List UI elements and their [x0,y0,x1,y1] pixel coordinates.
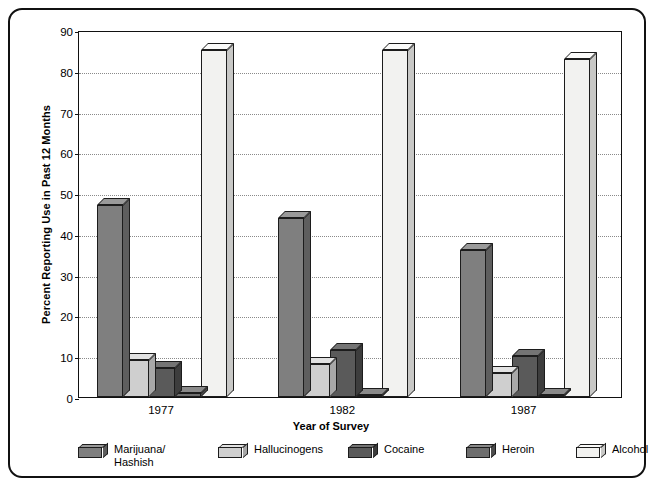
bar-front-face [97,205,123,397]
bar-marijuanahashish-1987 [460,250,486,397]
legend-swatch-side [491,443,496,458]
chart-figure: Percent Reporting Use in Past 12 Months … [0,0,662,497]
legend-label: Alcohol [612,441,648,456]
gridline [79,195,621,196]
y-tick-mark [75,317,79,318]
legend-swatch-front [218,447,242,458]
bar-marijuanahashish-1982 [278,218,304,397]
legend-swatch-side [373,443,378,458]
bar-side-face [538,349,545,397]
bar-front-face [278,218,304,397]
gridline [79,236,621,237]
bar-side-face [356,343,363,397]
bar-side-face [408,43,415,397]
legend-swatch-icon [348,444,378,458]
bar-front-face [564,59,590,397]
bar-side-face [486,243,493,397]
bar-alcohol-1977 [201,50,227,397]
y-tick-label: 50 [60,189,73,201]
bar-side-face [590,52,597,397]
chart-legend: Marijuana/ HashishHallucinogensCocaineHe… [78,441,638,483]
bar-front-face [382,50,408,397]
y-tick-label: 90 [60,26,73,38]
legend-swatch-front [348,447,372,458]
bar-alcohol-1982 [382,50,408,397]
legend-item-alcohol[interactable]: Alcohol [576,441,648,458]
legend-swatch-front [78,447,102,458]
y-tick-label: 20 [60,311,73,323]
bar-front-face [356,395,382,397]
bar-heroin-1987 [538,395,564,397]
legend-item-hallucinogens[interactable]: Hallucinogens [218,441,323,458]
legend-swatch-side [243,443,248,458]
y-tick-label: 80 [60,67,73,79]
legend-label: Cocaine [384,441,424,456]
bar-heroin-1977 [175,393,201,397]
y-tick-mark [75,32,79,33]
legend-item-cocaine[interactable]: Cocaine [348,441,424,458]
bar-front-face [538,395,564,397]
y-tick-mark [75,358,79,359]
bar-heroin-1982 [356,395,382,397]
x-tick-label-1982: 1982 [330,404,356,416]
x-tick-label-1977: 1977 [148,404,174,416]
gridline [79,73,621,74]
legend-swatch-front [576,447,600,458]
bar-side-face [227,43,234,397]
y-tick-mark [75,277,79,278]
y-tick-label: 70 [60,108,73,120]
bar-front-face [460,250,486,397]
y-tick-label: 10 [60,352,73,364]
gridline [79,277,621,278]
y-tick-mark [75,73,79,74]
y-tick-label: 60 [60,148,73,160]
y-tick-mark [75,114,79,115]
bar-side-face [123,198,130,397]
bar-marijuanahashish-1977 [97,205,123,397]
bar-side-face [149,353,156,397]
y-tick-label: 0 [67,393,73,405]
x-tick-label-1987: 1987 [511,404,537,416]
legend-label: Heroin [502,441,534,456]
legend-swatch-icon [78,444,108,458]
legend-swatch-icon [576,444,606,458]
gridline [79,114,621,115]
y-tick-label: 40 [60,230,73,242]
y-tick-mark [75,195,79,196]
bar-front-face [201,50,227,397]
y-axis-title: Percent Reporting Use in Past 12 Months [40,105,52,324]
bar-alcohol-1987 [564,59,590,397]
gridline [79,154,621,155]
x-axis-title: Year of Survey [0,420,662,432]
legend-label: Marijuana/ Hashish [114,441,165,468]
legend-swatch-icon [466,444,496,458]
bar-front-face [175,393,201,397]
y-tick-label: 30 [60,271,73,283]
legend-item-heroin[interactable]: Heroin [466,441,534,458]
gridline [79,317,621,318]
legend-swatch-front [466,447,490,458]
y-tick-mark [75,154,79,155]
plot-area: 0102030405060708090 [78,31,622,398]
legend-item-marijuanahashish[interactable]: Marijuana/ Hashish [78,441,165,468]
y-tick-mark [75,236,79,237]
legend-swatch-side [601,443,606,458]
legend-label: Hallucinogens [254,441,323,456]
legend-swatch-icon [218,444,248,458]
legend-swatch-side [103,443,108,458]
y-tick-mark [75,399,79,400]
bar-side-face [304,211,311,397]
